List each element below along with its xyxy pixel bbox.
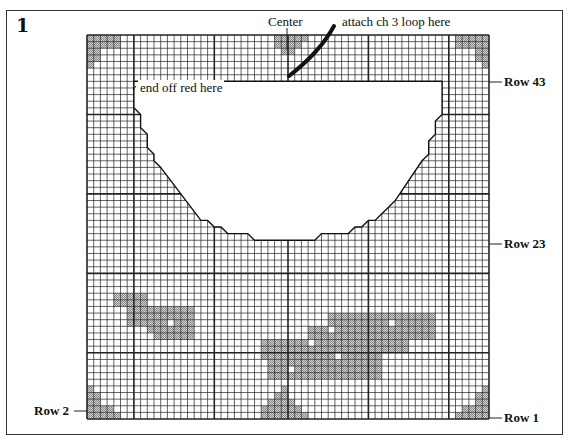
shaded-cell-motif_right — [355, 340, 362, 347]
shaded-cell-motif_right — [342, 373, 349, 380]
shaded-cell-motif_right — [268, 340, 275, 347]
shaded-cell-motif_left — [114, 300, 121, 307]
shaded-cell-motif_right — [422, 313, 429, 320]
shaded-cell-motif_right — [342, 313, 349, 320]
shaded-cell-motif_right — [288, 359, 295, 366]
shaded-cell-top_center — [295, 35, 302, 42]
shaded-cell-motif_right — [409, 320, 416, 327]
shaded-cell-motif_right — [328, 366, 335, 373]
shaded-cell-motif_right — [382, 333, 389, 340]
shaded-cell-motif_right — [355, 333, 362, 340]
shaded-cell-motif_right — [328, 353, 335, 360]
shaded-cell-motif_right — [288, 346, 295, 353]
shaded-cell-motif_right — [295, 359, 302, 366]
shaded-cell-top_left — [107, 42, 114, 49]
shaded-cell-top_right — [456, 35, 463, 42]
shaded-cell-top_right — [476, 42, 483, 49]
shaded-cell-motif_right — [375, 373, 382, 380]
end-off-label: end off red here — [138, 80, 224, 96]
shaded-cell-bottom_right — [456, 412, 463, 419]
shaded-cell-motif_right — [382, 340, 389, 347]
shaded-cell-top_left — [100, 35, 107, 42]
shaded-cell-motif_right — [335, 333, 342, 340]
shaded-cell-bottom_center — [288, 406, 295, 413]
shaded-cell-motif_right — [288, 373, 295, 380]
shaded-cell-motif_right — [375, 333, 382, 340]
shaded-cell-top_right — [476, 35, 483, 42]
shaded-cell-bottom_right — [462, 412, 469, 419]
shaded-cell-motif_left — [141, 313, 148, 320]
shaded-cell-motif_right — [409, 326, 416, 333]
shaded-cell-motif_right — [295, 346, 302, 353]
shaded-cell-motif_right — [395, 313, 402, 320]
shaded-cell-motif_left — [121, 293, 128, 300]
shaded-cell-motif_right — [342, 340, 349, 347]
shaded-cell-motif_right — [375, 320, 382, 327]
shaded-cell-motif_left — [161, 333, 168, 340]
shaded-cell-top_left — [87, 61, 94, 68]
shaded-cell-motif_left — [181, 313, 188, 320]
shaded-cell-motif_left — [161, 326, 168, 333]
shaded-cell-motif_right — [382, 313, 389, 320]
shaded-cell-motif_right — [322, 326, 329, 333]
shaded-cell-motif_right — [275, 366, 282, 373]
shaded-cell-motif_right — [348, 333, 355, 340]
neckline-cutout — [134, 81, 442, 240]
shaded-cell-bottom_left — [107, 412, 114, 419]
shaded-cell-motif_left — [147, 306, 154, 313]
shaded-cell-motif_right — [322, 373, 329, 380]
shaded-cell-motif_left — [174, 333, 181, 340]
shaded-cell-motif_right — [429, 333, 436, 340]
shaded-cell-motif_right — [355, 313, 362, 320]
shaded-cell-motif_right — [402, 326, 409, 333]
shaded-cell-motif_right — [348, 373, 355, 380]
shaded-cell-motif_left — [134, 320, 141, 327]
shaded-cell-bottom_right — [476, 406, 483, 413]
shaded-cell-motif_right — [362, 320, 369, 327]
shaded-cell-motif_right — [362, 366, 369, 373]
shaded-cell-top_right — [469, 42, 476, 49]
shaded-cell-top_left — [94, 42, 101, 49]
shaded-cell-motif_right — [355, 326, 362, 333]
shaded-cell-motif_right — [275, 340, 282, 347]
shaded-cell-bottom_center — [268, 406, 275, 413]
shaded-cell-motif_right — [295, 340, 302, 347]
shaded-cell-motif_right — [415, 326, 422, 333]
shaded-cell-motif_right — [368, 340, 375, 347]
shaded-cell-motif_right — [342, 359, 349, 366]
shaded-cell-top_center — [295, 42, 302, 49]
shaded-cell-motif_right — [275, 373, 282, 380]
shaded-cell-motif_right — [368, 359, 375, 366]
shaded-cell-motif_right — [275, 359, 282, 366]
center-label: Center — [268, 14, 303, 30]
shaded-cell-motif_left — [181, 326, 188, 333]
shaded-cell-motif_right — [348, 346, 355, 353]
shaded-cell-motif_right — [328, 313, 335, 320]
shaded-cell-top_center — [301, 35, 308, 42]
shaded-cell-motif_right — [375, 346, 382, 353]
shaded-cell-motif_left — [121, 300, 128, 307]
shaded-cell-motif_right — [355, 346, 362, 353]
shaded-cell-bottom_center — [261, 412, 268, 419]
shaded-cell-top_right — [469, 35, 476, 42]
row2-label: Row 2 — [34, 403, 69, 419]
shaded-cell-motif_left — [127, 306, 134, 313]
shaded-cell-bottom_center — [275, 412, 282, 419]
shaded-cell-motif_right — [422, 333, 429, 340]
shaded-cell-motif_right — [355, 373, 362, 380]
shaded-cell-bottom_center — [281, 412, 288, 419]
shaded-cell-motif_left — [188, 306, 195, 313]
shaded-cell-top_left — [87, 42, 94, 49]
shaded-cell-motif_right — [429, 326, 436, 333]
shaded-cell-motif_right — [395, 326, 402, 333]
shaded-cell-motif_right — [308, 333, 315, 340]
shaded-cell-motif_right — [281, 373, 288, 380]
shaded-cell-motif_right — [375, 340, 382, 347]
shaded-cell-motif_left — [181, 306, 188, 313]
shaded-cell-motif_left — [154, 306, 161, 313]
shaded-cell-bottom_left — [87, 393, 94, 400]
row23-label: Row 23 — [504, 236, 546, 252]
shaded-cell-motif_right — [362, 359, 369, 366]
shaded-cell-motif_right — [295, 366, 302, 373]
shaded-cell-motif_right — [389, 313, 396, 320]
